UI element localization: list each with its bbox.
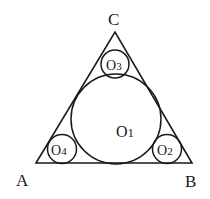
circle-label-o3: O3 bbox=[106, 58, 122, 73]
vertex-label-a: A bbox=[16, 171, 29, 190]
vertex-label-c: C bbox=[108, 10, 119, 29]
circle-o1 bbox=[71, 74, 161, 164]
circle-label-o1: O1 bbox=[116, 123, 134, 140]
vertex-label-b: B bbox=[185, 172, 196, 191]
circle-label-o4: O4 bbox=[51, 143, 67, 158]
triangle-circles-diagram: C A B O1 O2 O3 O4 bbox=[0, 0, 210, 199]
circle-label-o2: O2 bbox=[157, 143, 173, 158]
